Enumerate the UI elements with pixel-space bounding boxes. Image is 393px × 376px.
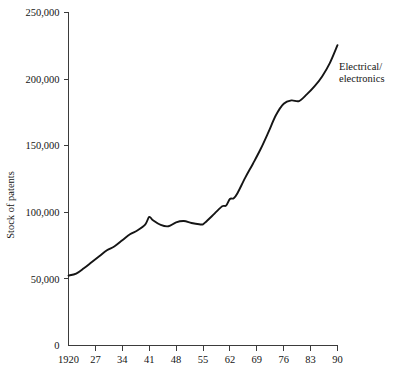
x-tick-label: 48 — [171, 354, 182, 365]
x-tick-label: 69 — [252, 354, 263, 365]
series-line-electrical-electronics — [69, 45, 338, 275]
chart-canvas: 050,000100,000150,000200,000250,000 1920… — [0, 0, 393, 376]
x-tick-label: 41 — [144, 354, 155, 365]
x-tick-label: 1920 — [58, 354, 79, 365]
x-tick-label: 34 — [117, 354, 128, 365]
axes-group — [64, 13, 338, 351]
series-annotation-electrical-electronics: Electrical/ electronics — [339, 61, 384, 84]
y-axis-title: Stock of patents — [5, 171, 16, 239]
series-annotation-line-1: Electrical/ — [339, 61, 382, 72]
x-axis-tick-labels: 192027344148556269768390 — [58, 354, 343, 365]
x-tick-label: 90 — [332, 354, 343, 365]
y-axis-ticks — [64, 13, 69, 279]
y-tick-label: 200,000 — [25, 74, 59, 85]
patent-stock-chart: 050,000100,000150,000200,000250,000 1920… — [0, 0, 393, 376]
y-tick-label: 150,000 — [25, 140, 59, 151]
x-tick-label: 83 — [305, 354, 316, 365]
y-tick-label: 0 — [54, 340, 59, 351]
y-tick-label: 50,000 — [31, 274, 60, 285]
x-axis-ticks — [95, 346, 337, 351]
y-tick-label: 250,000 — [25, 7, 59, 18]
data-series-group — [69, 45, 338, 275]
x-tick-label: 62 — [225, 354, 236, 365]
x-tick-label: 55 — [198, 354, 209, 365]
y-axis-tick-labels: 050,000100,000150,000200,000250,000 — [25, 7, 59, 351]
x-tick-label: 27 — [90, 354, 101, 365]
x-tick-label: 76 — [278, 354, 289, 365]
y-tick-label: 100,000 — [25, 207, 59, 218]
series-annotation-line-2: electronics — [339, 73, 384, 84]
